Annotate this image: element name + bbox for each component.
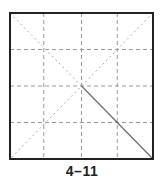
figure-caption: 4–11 (0, 163, 164, 179)
fold-diagram (0, 0, 164, 188)
